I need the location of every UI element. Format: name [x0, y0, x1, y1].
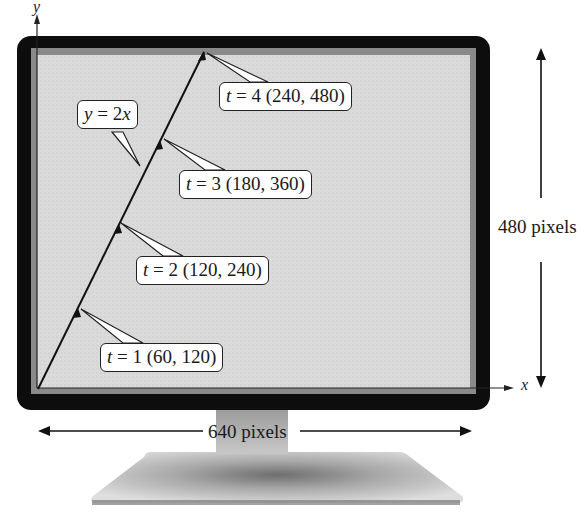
equation-var: x [122, 103, 130, 124]
t-value: = 3 [191, 173, 225, 194]
y-axis-label: y [33, 0, 40, 15]
monitor-diagram: y x yy = 2 = 2x t = 4 (240, 480) t = 3 (… [0, 0, 585, 520]
point-callout-t1: t = 1 (60, 120) [100, 343, 223, 372]
equation-mid: = 2 [92, 103, 122, 124]
point-callout-t3: t = 3 (180, 360) [179, 170, 312, 199]
t-value: = 2 [148, 259, 182, 280]
height-dimension-label: 480 pixels [495, 217, 580, 236]
t-value: = 4 [231, 85, 265, 106]
point-callout-t4: t = 4 (240, 480) [219, 82, 352, 111]
equation-callout: yy = 2 = 2x [77, 100, 138, 129]
width-dimension-label: 640 pixels [205, 422, 290, 441]
point-coords: (180, 360) [226, 173, 305, 194]
stand-base [91, 452, 463, 505]
x-axis-label: x [521, 377, 528, 393]
point-coords: (120, 240) [183, 259, 262, 280]
point-coords: (60, 120) [147, 346, 217, 367]
point-callout-t2: t = 2 (120, 240) [136, 256, 269, 285]
point-coords: (240, 480) [266, 85, 345, 106]
monitor-illustration [0, 0, 585, 520]
t-value: = 1 [112, 346, 146, 367]
